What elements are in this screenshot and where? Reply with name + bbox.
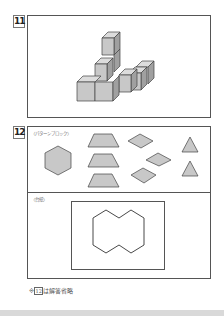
- trapezoid-block: [88, 154, 119, 167]
- note-problem-ref: 12: [34, 287, 43, 295]
- two-hexagon-outline: [93, 210, 144, 253]
- rhombus-block: [146, 153, 171, 166]
- rhombus-block: [131, 168, 156, 183]
- figures-canvas: [0, 0, 224, 316]
- trapezoid-block: [88, 134, 119, 147]
- cube-stack-figure: [77, 32, 154, 101]
- answer-omitted-note: ※12は解答省略: [29, 286, 73, 295]
- hexagon-block: [45, 146, 71, 175]
- pattern-blocks: [45, 134, 198, 187]
- trapezoid-block: [88, 174, 119, 187]
- rhombus-block: [128, 134, 153, 148]
- triangle-block: [182, 137, 198, 152]
- page-bottom-band: [0, 310, 224, 316]
- triangle-block: [182, 161, 198, 176]
